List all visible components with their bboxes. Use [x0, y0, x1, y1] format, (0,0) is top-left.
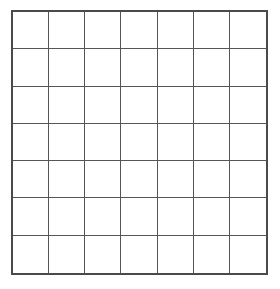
grid-cell	[85, 198, 121, 235]
grid-cell	[230, 87, 266, 124]
grid-cell	[230, 12, 266, 49]
grid-cell	[13, 236, 49, 273]
grid-cell	[121, 124, 157, 161]
grid-cell	[230, 236, 266, 273]
grid-cell	[158, 236, 194, 273]
grid-cell	[194, 49, 230, 86]
grid-cell	[194, 87, 230, 124]
grid-cell	[85, 161, 121, 198]
grid-cell	[13, 198, 49, 235]
grid-cell	[158, 198, 194, 235]
grid-cell	[85, 12, 121, 49]
grid-cell	[49, 124, 85, 161]
grid-cell	[230, 198, 266, 235]
grid-cell	[13, 12, 49, 49]
grid-cell	[194, 161, 230, 198]
grid-cell	[121, 12, 157, 49]
grid-cell	[49, 161, 85, 198]
grid-cell	[85, 236, 121, 273]
grid-cell	[85, 124, 121, 161]
grid-cell	[49, 87, 85, 124]
grid-cell	[121, 198, 157, 235]
grid-cell	[121, 87, 157, 124]
grid-cell	[194, 124, 230, 161]
grid-7x7	[11, 10, 268, 275]
grid-cell	[230, 49, 266, 86]
grid-cell	[158, 87, 194, 124]
grid-cell	[230, 161, 266, 198]
grid-cell	[49, 49, 85, 86]
grid-cell	[194, 198, 230, 235]
grid-cell	[49, 198, 85, 235]
grid-cell	[121, 161, 157, 198]
grid-cell	[13, 124, 49, 161]
grid-cell	[121, 236, 157, 273]
grid-cell	[158, 161, 194, 198]
grid-cell	[230, 124, 266, 161]
grid-cell	[158, 49, 194, 86]
grid-cell	[85, 49, 121, 86]
grid-cell	[158, 12, 194, 49]
grid-cell	[13, 49, 49, 86]
grid-cell	[13, 161, 49, 198]
grid-cell	[85, 87, 121, 124]
canvas	[0, 0, 280, 289]
grid-cell	[49, 12, 85, 49]
grid-cell	[194, 12, 230, 49]
grid-cell	[158, 124, 194, 161]
grid-cell	[49, 236, 85, 273]
grid-cell	[13, 87, 49, 124]
grid-cell	[194, 236, 230, 273]
grid-cell	[121, 49, 157, 86]
